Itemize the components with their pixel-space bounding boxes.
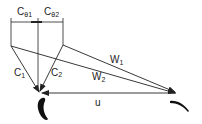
c1-label: C1 [14, 67, 25, 79]
w1-label: W1 [110, 54, 123, 66]
c-theta2-label: Cθ2 [44, 6, 59, 18]
blade-right-icon [170, 101, 189, 112]
c2-label: C2 [51, 67, 62, 78]
w1-vector [63, 45, 175, 92]
c-theta1-label: Cθ1 [17, 6, 32, 18]
u-label: u [95, 97, 101, 108]
blade-left-icon [38, 98, 48, 120]
velocity-triangle-diagram: Cθ1 Cθ2 C1 C2 W1 W2 u [0, 0, 202, 124]
